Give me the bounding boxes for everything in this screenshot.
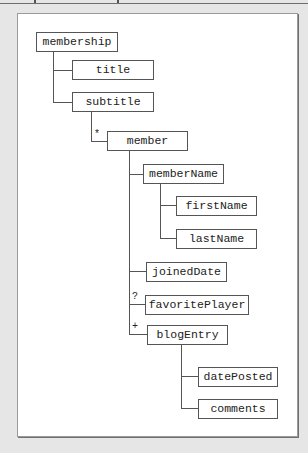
connector-line [181, 376, 198, 377]
node-blogEntry: blogEntry [147, 325, 228, 345]
connector-line [53, 102, 72, 103]
top-rule [0, 3, 308, 4]
node-subtitle: subtitle [72, 92, 154, 112]
node-title: title [72, 60, 154, 80]
node-favoritePlayer: favoritePlayer [145, 295, 249, 315]
cardinality-mark: ? [132, 292, 138, 302]
node-memberName: memberName [143, 164, 224, 184]
connector-line [129, 304, 145, 305]
connector-line [91, 112, 92, 141]
connector-line [181, 408, 198, 409]
node-lastName: lastName [176, 229, 257, 249]
cardinality-mark: + [132, 322, 138, 332]
connector-line [129, 151, 130, 335]
top-text-fragment [117, 0, 119, 3]
connector-line [129, 334, 147, 335]
node-joinedDate: joinedDate [146, 262, 227, 282]
top-text-fragment [34, 0, 36, 3]
connector-line [91, 141, 107, 142]
connector-line [160, 205, 176, 206]
node-firstName: firstName [176, 196, 257, 216]
connector-line [160, 184, 161, 238]
connector-line [53, 70, 72, 71]
cardinality-mark: * [94, 130, 100, 140]
node-comments: comments [198, 399, 278, 419]
node-member: member [107, 131, 188, 151]
connector-line [129, 174, 143, 175]
connector-line [160, 238, 176, 239]
connector-line [53, 51, 54, 102]
node-membership: membership [36, 32, 118, 52]
connector-line [129, 271, 146, 272]
node-datePosted: datePosted [198, 367, 278, 387]
